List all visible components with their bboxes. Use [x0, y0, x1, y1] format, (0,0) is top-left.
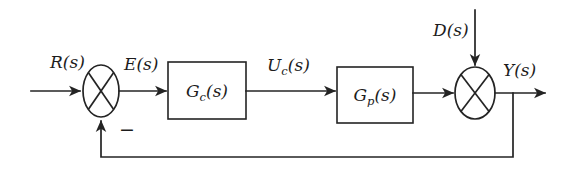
control-signal-label: Uc(s): [267, 55, 310, 78]
output-signal-label: Y(s): [503, 60, 536, 80]
control-signal-tail: (s): [288, 55, 310, 75]
feedback-path-wire: [101, 93, 513, 157]
error-summing-junction: [83, 65, 119, 117]
plant-base: G: [354, 85, 368, 105]
plant-tail: (s): [374, 85, 396, 105]
negative-feedback-sign: −: [119, 118, 135, 140]
block-diagram-canvas: Gc(s) Gp(s): [0, 0, 570, 175]
disturbance-summing-junction: [455, 67, 495, 119]
disturbance-input-label: D(s): [432, 20, 469, 40]
plant-block: Gp(s): [337, 67, 413, 123]
control-signal-base: U: [267, 55, 282, 75]
controller-tail: (s): [206, 81, 228, 101]
error-signal-label: E(s): [123, 54, 158, 74]
controller-block-label: Gc(s): [186, 81, 228, 104]
plant-block-label: Gp(s): [354, 85, 397, 108]
reference-input-label: R(s): [49, 52, 85, 72]
block-diagram-svg: Gc(s) Gp(s): [0, 0, 570, 175]
controller-base: G: [186, 81, 200, 101]
controller-block: Gc(s): [168, 62, 246, 119]
